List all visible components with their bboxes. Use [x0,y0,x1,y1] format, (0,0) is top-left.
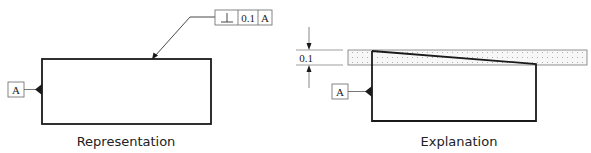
fcf-datum-reference: A [261,12,269,24]
explanation-view: 0.1 A Explanation [296,27,587,149]
datum-feature-a-left: A [8,82,42,97]
part-outline [42,59,211,124]
leader-line [155,17,215,56]
datum-label: A [12,84,20,96]
datum-label: A [336,86,344,98]
arrow-down-icon [307,43,312,50]
tolerance-zone-dimension: 0.1 [299,52,313,64]
representation-caption: Representation [77,134,176,149]
representation-view: 0.1 A A Representation [8,10,272,149]
arrow-up-icon [307,65,312,72]
fcf-tolerance-value: 0.1 [241,12,255,24]
perpendicularity-diagram: 0.1 A A Representation 0.1 [0,0,591,153]
datum-feature-a-right: A [332,84,372,99]
explanation-caption: Explanation [421,134,498,149]
datum-triangle-icon [365,86,372,97]
feature-control-frame: 0.1 A [215,10,272,25]
datum-triangle-icon [35,84,42,95]
